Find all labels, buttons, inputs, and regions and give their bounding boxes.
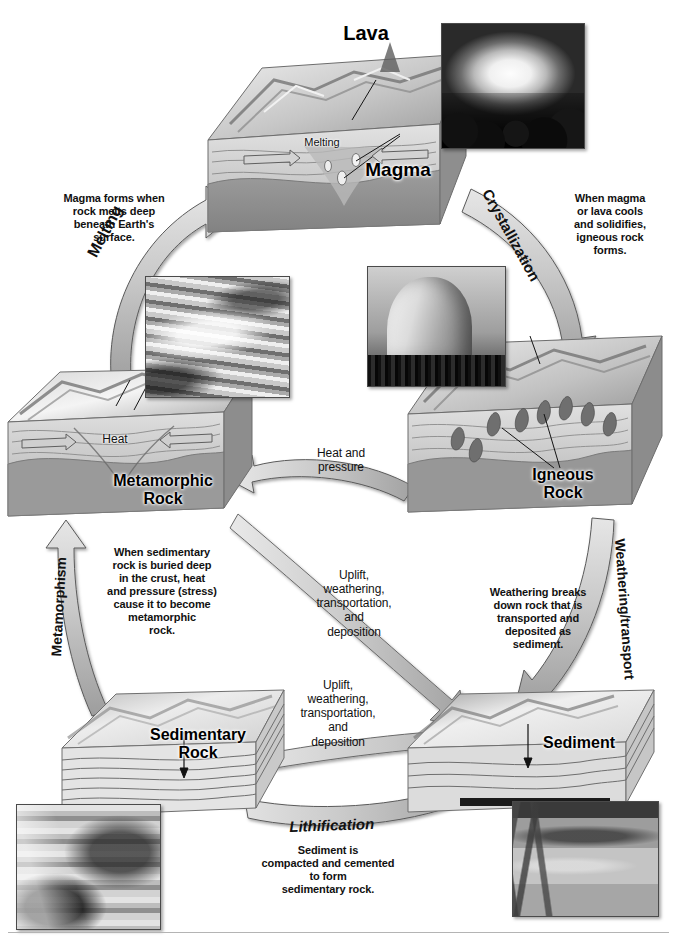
uplift-lower-line-2: transportation,: [300, 706, 375, 720]
label-metamorphic-rock: Metamorphic Rock: [98, 472, 228, 507]
uplift-upper-line-2: transportation,: [316, 596, 391, 610]
magma-block-diagram: [204, 28, 472, 236]
label-metamorphic-rock-line2: Rock: [143, 490, 182, 507]
label-sedimentary-rock-line2: Rock: [178, 744, 217, 761]
process-label-lithification: Lithification: [289, 815, 375, 835]
rock-cycle-diagram: Lava Magma Melting Heat Metamorphic Rock…: [0, 0, 677, 944]
label-metamorphic-rock-line1: Metamorphic: [113, 472, 213, 489]
uplift-lower-line-0: Uplift,: [323, 678, 353, 692]
label-lava: Lava: [326, 22, 406, 44]
label-magma: Magma: [348, 160, 448, 181]
description-when-magma-cools: When magma or lava cools and solidifies,…: [556, 192, 664, 257]
label-sediment: Sediment: [524, 734, 634, 752]
footer-divider: [8, 932, 669, 933]
heat-and-pressure-line2: pressure: [318, 460, 364, 474]
uplift-upper-line-3: and: [344, 610, 364, 624]
description-when-sedimentary-buried: When sedimentary rock is buried deep in …: [82, 546, 242, 637]
process-label-heat-and-pressure: Heat and pressure: [286, 446, 396, 474]
uplift-lower-line-1: weathering,: [308, 692, 369, 706]
label-melting-inset: Melting: [292, 136, 352, 148]
label-igneous-rock: Igneous Rock: [508, 466, 618, 501]
label-igneous-rock-line2: Rock: [543, 484, 582, 501]
folded-metamorphic-rock-photo: [145, 276, 290, 398]
uplift-upper-line-1: weathering,: [324, 582, 385, 596]
label-igneous-rock-line1: Igneous: [532, 466, 593, 483]
uplift-upper-line-0: Uplift,: [339, 568, 369, 582]
process-label-uplift-upper: Uplift, weathering, transportation, and …: [292, 568, 416, 639]
uplift-upper-line-4: deposition: [327, 625, 381, 639]
description-magma-forms: Magma forms when rock melts deep beneath…: [34, 192, 194, 244]
uplift-lower-line-4: deposition: [311, 735, 365, 749]
braided-river-photo: [512, 801, 659, 917]
label-heat: Heat: [90, 432, 140, 446]
lava-eruption-photo: [441, 23, 585, 149]
process-label-uplift-lower: Uplift, weathering, transportation, and …: [276, 678, 400, 749]
label-sedimentary-rock: Sedimentary Rock: [128, 726, 268, 761]
heat-and-pressure-line1: Heat and: [317, 446, 365, 460]
description-sediment-compacted: Sediment is compacted and cemented to fo…: [228, 844, 428, 896]
canyon-strata-photo: [16, 804, 161, 930]
description-weathering-breaks: Weathering breaks down rock that is tran…: [470, 586, 606, 651]
uplift-lower-line-3: and: [328, 720, 348, 734]
label-sedimentary-rock-line1: Sedimentary: [150, 726, 246, 743]
granite-dome-photo: [367, 266, 506, 387]
